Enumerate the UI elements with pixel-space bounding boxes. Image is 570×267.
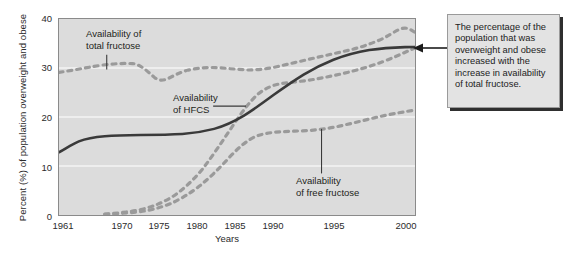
annotation-free-fructose: Availability of free fructose (296, 175, 359, 198)
callout-box: The percentage of the population that wa… (447, 14, 560, 108)
x-tick-1970: 1970 (102, 220, 142, 231)
annotation-total-fructose: Availability of total fructose (86, 28, 141, 51)
y-tick-30: 30 (26, 62, 52, 73)
x-tick-2000: 2000 (386, 220, 426, 231)
x-tick-1990: 1990 (253, 220, 293, 231)
x-tick-1980: 1980 (177, 220, 217, 231)
x-tick-1975: 1975 (139, 220, 179, 231)
y-tick-20: 20 (26, 112, 52, 123)
x-tick-1961: 1961 (43, 220, 83, 231)
chart-figure: Percent (%) of population overweight and… (0, 0, 570, 267)
callout-text: The percentage of the population that wa… (455, 22, 546, 89)
x-tick-1985: 1985 (215, 220, 255, 231)
series-hfcs (105, 48, 415, 214)
series-free-fructose (105, 110, 415, 214)
x-tick-1995: 1995 (314, 220, 354, 231)
annotation-hfcs: Availability of HFCS (173, 92, 218, 115)
y-tick-40: 40 (26, 13, 52, 24)
y-tick-10: 10 (26, 162, 52, 173)
callout-arrow-icon (413, 41, 449, 55)
x-axis-title: Years (197, 233, 257, 244)
